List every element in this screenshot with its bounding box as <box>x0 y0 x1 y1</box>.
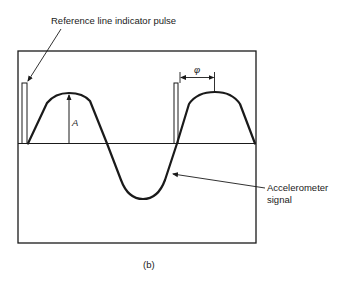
reference-pulse-2 <box>174 83 178 144</box>
oscilloscope-diagram: A φ Reference line indicator pulse Accel… <box>0 0 343 285</box>
signal-label-line1: Accelerometer <box>267 182 328 193</box>
display-frame <box>18 51 256 243</box>
amplitude-label: A <box>71 117 78 128</box>
phase-label: φ <box>194 64 200 75</box>
reference-pulse-leader <box>28 29 61 81</box>
figure-caption: (b) <box>143 259 155 270</box>
reference-pulse-label: Reference line indicator pulse <box>51 15 176 26</box>
accelerometer-waveform <box>28 92 255 199</box>
reference-pulse-1 <box>22 83 27 144</box>
signal-leader <box>173 174 265 188</box>
signal-label-line2: signal <box>267 194 292 205</box>
